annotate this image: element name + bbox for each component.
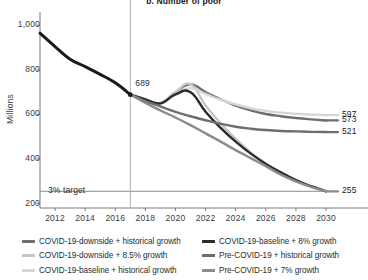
legend-label: Pre-COVID-19 + historical growth [219,251,339,260]
legend-label: Pre-COVID-19 + 7% growth [219,266,319,275]
y-tick-label: 400 [25,153,40,163]
plot-area [0,0,368,232]
series-line [40,33,130,94]
legend-swatch-icon [22,240,35,243]
x-tick-label: 2026 [249,213,283,223]
x-tick-label: 2012 [38,213,72,223]
legend-item[interactable]: Pre-COVID-19 + 7% growth [202,263,368,278]
legend-swatch-icon [202,240,215,243]
x-tick-label: 2028 [279,213,313,223]
legend-label: COVID-19-downside + 8.5% growth [39,251,167,260]
series-line [130,95,326,192]
legend-swatch-icon [202,254,215,257]
x-axis-ticks: 2012201420162018202020222024202620282030 [0,209,368,229]
end-label-573: 573 [342,114,356,124]
y-tick-label: 600 [25,108,40,118]
end-label-255: 255 [342,185,356,195]
chart-root: b. Number of poor Millions 2004006008001… [0,0,368,280]
x-tick-label: 2014 [68,213,102,223]
legend-label: COVID-19-baseline + 8% growth [219,237,337,246]
x-tick-label: 2016 [98,213,132,223]
legend-item[interactable]: COVID-19-downside + historical growth [22,234,198,249]
historical-endpoint-label: 689 [135,78,149,88]
target-line-label: 3% target [48,185,85,195]
x-tick-label: 2030 [309,213,343,223]
y-tick-label: 200 [25,198,40,208]
legend-label: COVID-19-baseline + historical growth [39,266,177,275]
historical-endpoint-marker [128,92,133,97]
legend-item[interactable]: COVID-19-baseline + 8% growth [202,234,368,249]
y-axis-ticks: 2004006008001,000 [0,0,40,232]
legend-item[interactable]: Pre-COVID-19 + historical growth [202,249,368,264]
plot-svg [0,0,368,232]
legend-swatch-icon [22,254,35,257]
legend-swatch-icon [202,269,215,272]
x-tick-label: 2022 [189,213,223,223]
legend-swatch-icon [22,269,35,272]
series-line [130,83,326,191]
end-label-521: 521 [342,126,356,136]
y-tick-label: 1,000 [18,19,40,29]
chart-legend: COVID-19-downside + historical growthCOV… [0,234,368,280]
x-tick-label: 2024 [219,213,253,223]
x-tick-label: 2020 [158,213,192,223]
x-tick-label: 2018 [128,213,162,223]
y-tick-label: 800 [25,64,40,74]
legend-item[interactable]: COVID-19-downside + 8.5% growth [22,249,198,264]
legend-item[interactable]: COVID-19-baseline + historical growth [22,263,198,278]
legend-label: COVID-19-downside + historical growth [39,237,181,246]
